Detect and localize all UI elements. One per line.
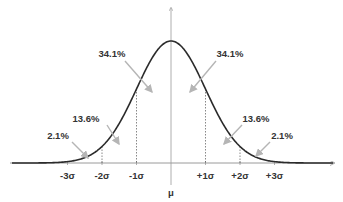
tick-label: -3σ — [60, 170, 75, 181]
axes — [10, 8, 334, 185]
tick-label: +1σ — [197, 170, 215, 181]
region-percent-label: 34.1% — [99, 48, 126, 59]
tick-label: -2σ — [95, 170, 110, 181]
mean-label: μ — [168, 187, 174, 198]
region-percent-label: 2.1% — [271, 130, 293, 141]
tick-label: +3σ — [266, 170, 284, 181]
region-labels: 2.1%13.6%34.1%34.1%13.6%2.1% — [47, 48, 293, 141]
tick-label: -1σ — [129, 170, 144, 181]
region-arrow — [256, 142, 270, 156]
bell-curve — [12, 41, 333, 163]
region-percent-label: 34.1% — [217, 48, 244, 59]
region-arrow — [224, 125, 242, 144]
region-percent-label: 2.1% — [47, 130, 69, 141]
tick-labels: -3σ-2σ-1σ+1σ+2σ+3σ — [60, 170, 284, 181]
tick-label: +2σ — [231, 170, 249, 181]
normal-distribution-diagram: 2.1%13.6%34.1%34.1%13.6%2.1% -3σ-2σ-1σ+1… — [0, 0, 343, 202]
region-arrow — [72, 142, 88, 158]
region-percent-label: 13.6% — [243, 113, 270, 124]
region-percent-label: 13.6% — [73, 113, 100, 124]
